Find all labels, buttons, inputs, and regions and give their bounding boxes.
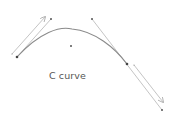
start-arrow-tail-point	[11, 53, 12, 54]
end-arrow-tail-point	[133, 64, 134, 65]
start-anchor-point	[16, 56, 19, 59]
c-curve-diagram	[0, 0, 173, 122]
control-point-1	[50, 18, 52, 20]
bezier-curve	[17, 28, 127, 64]
end-direction-arrow	[134, 65, 163, 102]
center-point	[70, 45, 72, 47]
end-anchor-point	[126, 63, 129, 66]
curve-label: C curve	[49, 70, 86, 81]
start-direction-arrow	[12, 17, 45, 54]
end-extension-point	[161, 109, 163, 111]
control-point-2	[91, 18, 93, 20]
